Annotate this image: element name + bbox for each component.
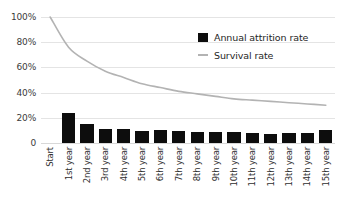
y-axis-tick-label: 0 xyxy=(30,138,36,148)
x-axis: Start1st year2nd year3rd year4th year5th… xyxy=(41,145,335,207)
x-axis-tick: 9th year xyxy=(206,145,224,207)
x-axis-tick: 11th year xyxy=(243,145,261,207)
x-axis-tick-label: 7th year xyxy=(174,147,184,181)
x-axis-tick: 5th year xyxy=(133,145,151,207)
x-axis-tick-label: 11th year xyxy=(247,147,257,186)
x-axis-tick-label: 12th year xyxy=(266,147,276,186)
x-axis-tick-label: Start xyxy=(45,147,55,167)
x-axis-tick-label: 14th year xyxy=(302,147,312,186)
x-axis-tick: 14th year xyxy=(298,145,316,207)
x-axis-tick: 1st year xyxy=(59,145,77,207)
legend-item[interactable]: Survival rate xyxy=(198,50,308,61)
x-axis-tick: 6th year xyxy=(151,145,169,207)
y-axis-tick-label: 40% xyxy=(17,88,36,98)
y-axis-tick-label: 60% xyxy=(17,62,36,72)
x-axis-tick-label: 5th year xyxy=(137,147,147,181)
x-axis-tick: 10th year xyxy=(225,145,243,207)
y-axis-tick-label: 80% xyxy=(17,37,36,47)
x-axis-tick-label: 9th year xyxy=(211,147,221,181)
x-axis-tick: 3rd year xyxy=(96,145,114,207)
survival-rate-path xyxy=(50,17,326,105)
x-axis-tick: 12th year xyxy=(262,145,280,207)
x-axis-tick-label: 4th year xyxy=(119,147,129,181)
x-axis-tick: 4th year xyxy=(115,145,133,207)
legend-line-swatch-icon xyxy=(198,54,208,56)
x-axis-tick: 15th year xyxy=(317,145,335,207)
x-axis-tick: 7th year xyxy=(170,145,188,207)
x-axis-tick: Start xyxy=(41,145,59,207)
legend-item[interactable]: Annual attrition rate xyxy=(198,32,308,43)
x-axis-tick: 13th year xyxy=(280,145,298,207)
y-axis-tick-label: 100% xyxy=(11,12,36,22)
y-axis-tick-label: 20% xyxy=(17,113,36,123)
legend-item-label: Survival rate xyxy=(214,50,273,61)
x-axis-tick-label: 6th year xyxy=(155,147,165,181)
x-axis-tick: 2nd year xyxy=(78,145,96,207)
chart-legend: Annual attrition rateSurvival rate xyxy=(198,32,308,61)
x-axis-tick: 8th year xyxy=(188,145,206,207)
x-axis-tick-label: 3rd year xyxy=(100,147,110,181)
chart-container: 020%40%60%80%100% Annual attrition rateS… xyxy=(0,0,342,207)
x-axis-tick-label: 13th year xyxy=(284,147,294,186)
legend-square-swatch-icon xyxy=(198,33,208,42)
legend-item-label: Annual attrition rate xyxy=(214,32,308,43)
x-axis-tick-label: 8th year xyxy=(192,147,202,181)
y-axis: 020%40%60%80%100% xyxy=(0,0,40,207)
x-axis-tick-label: 2nd year xyxy=(82,147,92,183)
x-axis-tick-label: 15th year xyxy=(321,147,331,186)
x-axis-tick-label: 1st year xyxy=(64,147,74,180)
gridline xyxy=(41,143,335,144)
x-axis-tick-label: 10th year xyxy=(229,147,239,186)
